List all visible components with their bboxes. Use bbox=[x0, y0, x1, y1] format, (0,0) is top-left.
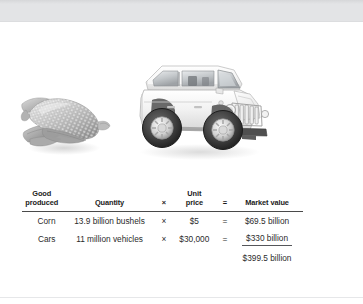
market-value-cars-underlined: $330 billion bbox=[242, 234, 292, 246]
column-header-good-produced: Good produced bbox=[22, 190, 62, 212]
unit-price-line2: price bbox=[186, 198, 203, 207]
total-spacer-equals bbox=[219, 249, 231, 266]
cell-quantity-cars: 11 million vehicles bbox=[62, 230, 158, 250]
column-header-quantity: Quantity bbox=[62, 190, 158, 212]
cell-multiply-corn: × bbox=[158, 212, 170, 230]
table-header-row: Good produced Quantity × Unit price = Ma… bbox=[22, 190, 303, 212]
column-header-unit-price: Unit price bbox=[170, 190, 219, 212]
column-header-equals-symbol: = bbox=[219, 190, 231, 212]
cell-market-value-corn: $69.5 billion bbox=[231, 212, 303, 230]
good-produced-line1: Good bbox=[32, 189, 51, 198]
total-value-text: $399.5 billion bbox=[239, 254, 296, 263]
top-gray-band bbox=[0, 0, 363, 22]
column-header-market-value: Market value bbox=[231, 190, 303, 212]
total-spacer-good bbox=[22, 249, 62, 266]
cell-equals-cars: = bbox=[219, 230, 231, 250]
cell-good-corn: Corn bbox=[22, 212, 62, 230]
table-header: Good produced Quantity × Unit price = Ma… bbox=[22, 190, 303, 212]
gdp-calculation-table: Good produced Quantity × Unit price = Ma… bbox=[22, 190, 303, 266]
good-produced-line2: produced bbox=[25, 198, 58, 207]
table-body: Corn 13.9 billion bushels × $5 = $69.5 b… bbox=[22, 212, 303, 266]
cell-quantity-corn: 13.9 billion bushels bbox=[62, 212, 158, 230]
total-spacer-multiply bbox=[158, 249, 170, 266]
bottom-divider bbox=[0, 297, 363, 298]
cell-total-market-value: $399.5 billion bbox=[231, 249, 303, 266]
cell-market-value-cars: $330 billion bbox=[231, 230, 303, 250]
column-header-multiply-symbol: × bbox=[158, 190, 170, 212]
total-spacer-price bbox=[170, 249, 219, 266]
unit-price-line1: Unit bbox=[187, 189, 201, 198]
corn-cob-image bbox=[14, 84, 112, 164]
table-total-row: $399.5 billion bbox=[22, 249, 303, 266]
figure-image-area bbox=[0, 22, 363, 185]
cell-multiply-cars: × bbox=[158, 230, 170, 250]
table-row: Corn 13.9 billion bushels × $5 = $69.5 b… bbox=[22, 212, 303, 230]
cell-equals-corn: = bbox=[219, 212, 231, 230]
table-row: Cars 11 million vehicles × $30,000 = $33… bbox=[22, 230, 303, 250]
gdp-calculation-table-area: Good produced Quantity × Unit price = Ma… bbox=[0, 185, 363, 304]
cell-unit-price-cars: $30,000 bbox=[170, 230, 219, 250]
jeep-vehicle-image bbox=[122, 36, 270, 164]
cell-unit-price-corn: $5 bbox=[170, 212, 219, 230]
top-band-sheen bbox=[0, 0, 363, 4]
total-spacer-quantity bbox=[62, 249, 158, 266]
cell-good-cars: Cars bbox=[22, 230, 62, 250]
